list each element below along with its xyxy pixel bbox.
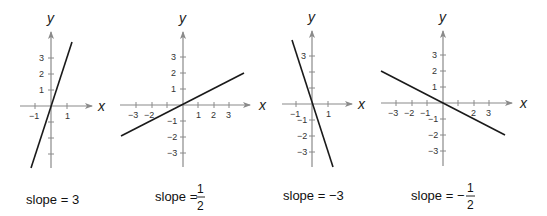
x-tick-label: 3 xyxy=(486,108,491,118)
y-tick-label: 3 xyxy=(39,53,44,63)
y-tick-label: 1 xyxy=(39,85,44,95)
y-tick-label: 1 xyxy=(432,82,437,92)
graph-slope-neg-half: x y −3 −2 −1 2 3 3 2 1 −1 −2 −3 slope xyxy=(381,9,528,212)
x-tick-label: −1 xyxy=(29,111,39,121)
graph-slope-half: x y −3 −2 1 2 3 3 2 1 −1 −2 −3 slope = xyxy=(120,10,267,213)
x-axis-label: x xyxy=(519,95,528,111)
fraction-numerator: 1 xyxy=(197,182,204,196)
x-tick-label: 2 xyxy=(211,110,216,120)
x-tick-label: 1 xyxy=(196,110,201,120)
y-tick-label: −3 xyxy=(428,146,438,156)
graph-slope-neg-3: x y −1 1 3 −1 −2 −3 slope = −3 xyxy=(282,9,366,203)
y-tick-label: −2 xyxy=(428,130,438,140)
x-tick-label: 3 xyxy=(226,110,231,120)
x-tick-label: −3 xyxy=(128,110,138,120)
fraction-denominator: 2 xyxy=(197,199,204,213)
y-tick-label: −3 xyxy=(297,147,307,157)
y-tick-label: −2 xyxy=(167,132,177,142)
y-tick-label: −1 xyxy=(428,114,438,124)
y-axis-label: y xyxy=(438,9,447,25)
x-axis-label: x xyxy=(357,96,366,112)
x-axis-label: x xyxy=(258,97,267,113)
caption-slope-half: slope = xyxy=(155,189,197,204)
y-tick-label: 2 xyxy=(171,68,176,78)
y-tick-label: 3 xyxy=(301,51,306,61)
caption-slope-neg-3: slope = −3 xyxy=(283,188,344,203)
x-tick-label: −3 xyxy=(388,108,398,118)
y-tick-label: 3 xyxy=(432,50,437,60)
y-tick-label: −3 xyxy=(167,148,177,158)
x-tick-label: 1 xyxy=(65,111,70,121)
y-tick-label: −2 xyxy=(297,131,307,141)
x-tick-label: 2 xyxy=(471,108,476,118)
y-tick-label: 1 xyxy=(171,84,176,94)
graph-slope-3: x y −1 1 3 2 1 slope = 3 xyxy=(20,10,106,207)
x-tick-label: −2 xyxy=(404,108,414,118)
y-tick-label: 2 xyxy=(39,69,44,79)
x-axis-label: x xyxy=(97,98,106,114)
fraction-numerator: 1 xyxy=(467,181,474,195)
y-tick-label: 3 xyxy=(171,52,176,62)
x-tick-label: −2 xyxy=(144,110,154,120)
fraction-denominator: 2 xyxy=(467,198,474,212)
y-axis-label: y xyxy=(307,9,316,25)
y-axis-label: y xyxy=(178,10,187,26)
caption-slope-3: slope = 3 xyxy=(26,192,79,207)
caption-slope-neg-half: slope = − xyxy=(411,188,465,203)
y-tick-label: −1 xyxy=(167,116,177,126)
y-axis-label: y xyxy=(46,10,55,26)
slope-figure: x y −1 1 3 2 1 slope = 3 x y xyxy=(0,0,547,216)
x-tick-label: 1 xyxy=(326,109,331,119)
y-tick-label: −1 xyxy=(297,115,307,125)
y-tick-label: 2 xyxy=(432,66,437,76)
